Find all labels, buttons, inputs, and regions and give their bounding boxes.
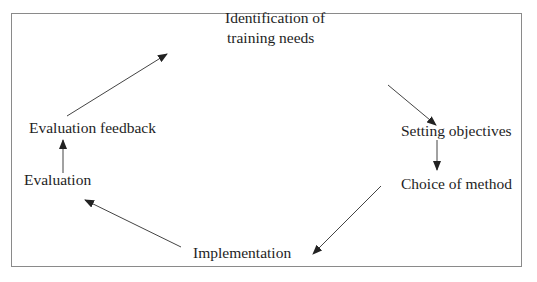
node-identification-line1: Identification of bbox=[225, 8, 325, 28]
arrow-implementation-to-evaluation bbox=[85, 200, 181, 247]
node-identification-line2: training needs bbox=[225, 28, 325, 48]
node-evaluation: Evaluation bbox=[24, 170, 91, 190]
arrow-method-to-implementation bbox=[313, 186, 381, 254]
arrow-feedback-to-identification bbox=[67, 54, 167, 116]
node-implementation: Implementation bbox=[193, 243, 291, 263]
node-choice-of-method: Choice of method bbox=[401, 174, 512, 194]
node-evaluation-feedback: Evaluation feedback bbox=[29, 118, 156, 138]
arrow-identification-to-objectives bbox=[388, 85, 436, 125]
node-setting-objectives: Setting objectives bbox=[401, 121, 512, 141]
node-identification: Identification of training needs bbox=[225, 8, 325, 48]
